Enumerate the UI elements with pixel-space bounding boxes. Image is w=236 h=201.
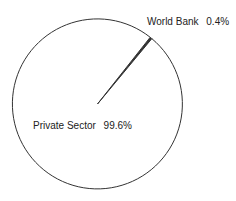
pie-slices <box>12 19 182 189</box>
pie-slice-private-sector <box>12 19 182 189</box>
slice-label-private-sector: Private Sector 99.6% <box>33 120 132 131</box>
pie-chart: World Bank 0.4% Private Sector 99.6% <box>0 0 236 201</box>
slice-label-name: World Bank <box>147 16 200 27</box>
slice-label-value: 99.6% <box>104 120 132 131</box>
slice-label-name: Private Sector <box>33 120 96 131</box>
slice-label-value: 0.4% <box>206 16 229 27</box>
slice-label-world-bank: World Bank 0.4% <box>147 16 229 27</box>
